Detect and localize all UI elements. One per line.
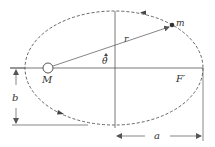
orbit-diagram: M m r θ F′ b a	[0, 0, 215, 147]
orbiting-mass-dot	[170, 23, 175, 28]
label-F-prime: F′	[175, 73, 186, 84]
radius-vector	[53, 27, 169, 66]
label-theta: θ	[102, 56, 108, 66]
label-M: M	[41, 74, 53, 85]
label-a: a	[154, 130, 160, 141]
label-r: r	[124, 34, 129, 44]
label-b: b	[12, 92, 18, 103]
central-mass-circle	[43, 63, 53, 73]
label-m: m	[176, 18, 185, 28]
orbit-direction-arrow-bottom	[57, 110, 64, 115]
